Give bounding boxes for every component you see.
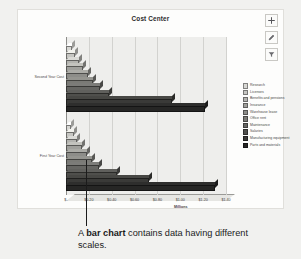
legend-label: Manufacturing equipment: [250, 137, 290, 141]
legend-item[interactable]: Maintenance: [243, 124, 301, 128]
legend-swatch: [243, 97, 248, 102]
legend-item[interactable]: Warehouse lease: [243, 110, 301, 114]
legend-label: Salaries: [250, 130, 263, 134]
legend-item[interactable]: Salaries: [243, 130, 301, 134]
filter-funnel-icon: [268, 51, 275, 58]
bar-body: [66, 106, 205, 112]
axis-tick-label: $-: [64, 198, 67, 202]
category-label: First Year Cost: [40, 154, 64, 158]
axis-tick-label: $1.20: [199, 198, 208, 202]
legend-item[interactable]: Manufacturing equipment: [243, 137, 301, 141]
legend-item[interactable]: Insurance: [243, 104, 301, 108]
figure-root: Cost Center Second Year CostFirst Year C…: [0, 0, 301, 259]
legend-item[interactable]: Licenses: [243, 91, 301, 95]
legend-item[interactable]: Parts and materials: [243, 143, 301, 147]
gridline: [157, 37, 158, 195]
legend-swatch: [243, 116, 248, 121]
legend-label: Maintenance: [250, 124, 270, 128]
add-icon: [268, 17, 275, 24]
chart-legend: ResearchLicensesBenefits and pensionsIns…: [243, 84, 301, 150]
chart-title: Cost Center: [18, 15, 283, 22]
chart-toolbar: [265, 14, 279, 65]
legend-swatch: [243, 123, 248, 128]
legend-item[interactable]: Benefits and pensions: [243, 97, 301, 101]
callout-leader-line: [86, 160, 87, 226]
axis-tick-label: $1.40: [221, 198, 230, 202]
axis-tick-label: $0.80: [153, 198, 162, 202]
caption-prefix: A: [78, 228, 86, 238]
caption-emphasis: bar chart: [86, 228, 125, 238]
legend-label: Research: [250, 84, 265, 88]
gridline: [135, 37, 136, 195]
chart-card-panel: Cost Center Second Year CostFirst Year C…: [17, 9, 284, 209]
legend-label: Licenses: [250, 91, 264, 95]
category-axis-labels: Second Year CostFirst Year Cost: [18, 37, 64, 195]
bar[interactable]: [66, 185, 215, 191]
gridline: [226, 37, 227, 195]
legend-swatch: [243, 129, 248, 134]
legend-label: Warehouse lease: [250, 111, 277, 115]
axis-unit-label: Millions: [174, 205, 187, 209]
axis-tick-label: $0.60: [130, 198, 139, 202]
legend-label: Parts and materials: [250, 144, 280, 148]
gridline: [203, 37, 204, 195]
legend-swatch: [243, 143, 248, 148]
category-label: Second Year Cost: [34, 75, 64, 79]
filter-button[interactable]: [265, 48, 278, 61]
bar-body: [66, 185, 215, 191]
edit-pencil-icon: [268, 34, 275, 41]
value-axis: $-$0.20$0.40$0.60$0.80$1.00$1.20$1.40: [66, 198, 226, 206]
axis-tick-label: $1.00: [176, 198, 185, 202]
legend-swatch: [243, 83, 248, 88]
edit-button[interactable]: [265, 31, 278, 44]
add-button[interactable]: [265, 14, 278, 27]
bar[interactable]: [66, 106, 205, 112]
legend-label: Benefits and pensions: [250, 97, 284, 101]
plot-area: [66, 37, 226, 195]
axis-tick-label: $0.40: [107, 198, 116, 202]
legend-swatch: [243, 110, 248, 115]
legend-item[interactable]: Office rent: [243, 117, 301, 121]
gridline: [180, 37, 181, 195]
legend-label: Insurance: [250, 104, 265, 108]
figure-caption: A bar chart contains data having differe…: [78, 228, 268, 251]
legend-item[interactable]: Research: [243, 84, 301, 88]
legend-swatch: [243, 103, 248, 108]
legend-swatch: [243, 90, 248, 95]
legend-label: Office rent: [250, 117, 266, 121]
legend-swatch: [243, 136, 248, 141]
